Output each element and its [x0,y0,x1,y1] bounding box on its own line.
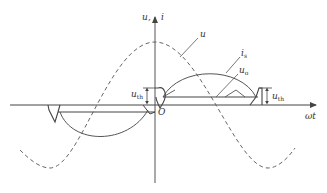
y-axis-label-sep: , [148,13,151,22]
uth-right-sub: th [278,95,284,102]
is-label-sub: s [244,52,247,59]
origin-label: O [158,108,165,117]
y-axis-label-i: i [161,13,164,22]
uo-ripple-positive [163,90,245,97]
x-axis-label: ωt [305,112,316,121]
spike-origin-negative [143,105,155,114]
is-arc-negative [60,110,148,137]
uo-leader-line [216,74,238,97]
uo-label-sub: o [245,69,249,76]
u-leader-line [180,38,198,57]
uth-left-label: uth [131,90,143,100]
waveform-figure: u , i ωt O u is uo uth uth [0,0,327,193]
uth-right-label: uth [272,92,284,102]
y-axis-label-u: u [142,13,148,22]
spike-left [48,105,60,122]
is-leader-line [226,57,240,73]
u-curve-label: u [200,30,206,39]
uth-left-sub: th [137,93,143,100]
is-curve-label: is [241,49,247,59]
uo-curve-label: uo [239,66,248,76]
